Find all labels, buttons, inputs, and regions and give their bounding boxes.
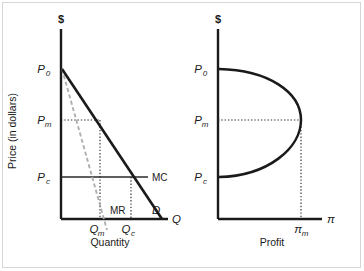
left-label-qc-sub: c <box>131 229 135 238</box>
left-label-pm: P m <box>37 114 52 129</box>
demand-label: D <box>152 204 160 216</box>
left-label-pc: P c <box>37 171 50 186</box>
economics-figure: $ Q Price (in dollars) P 0 <box>0 0 364 271</box>
right-label-pim-sub: m <box>302 229 309 238</box>
left-label-p0-base: P <box>37 63 45 75</box>
marginal-revenue-label: MR <box>110 205 126 216</box>
left-x-axis-unit: Q <box>172 213 181 225</box>
left-label-p0: P 0 <box>37 63 51 78</box>
figure-frame <box>3 3 361 268</box>
figure-canvas: $ Q Price (in dollars) P 0 <box>0 0 364 271</box>
right-label-pm: P m <box>194 114 209 129</box>
right-label-pc-base: P <box>194 171 202 183</box>
right-x-axis-unit: π <box>327 213 335 225</box>
left-y-axis-label: Price (in dollars) <box>6 93 18 169</box>
right-label-p0-sub: 0 <box>203 69 208 78</box>
left-label-qc-base: Q <box>122 223 131 235</box>
left-label-pc-sub: c <box>46 177 50 186</box>
right-y-axis-unit: $ <box>215 13 221 25</box>
right-panel: $ π P 0 P m P c <box>194 13 335 248</box>
marginal-revenue-line <box>62 69 107 230</box>
right-label-pc-sub: c <box>203 177 207 186</box>
left-label-p0-sub: 0 <box>46 69 51 78</box>
left-y-axis-label-group: Price (in dollars) <box>6 93 18 169</box>
right-label-pim: π m <box>294 223 309 238</box>
left-label-pm-sub: m <box>45 120 52 129</box>
right-label-p0-base: P <box>194 63 202 75</box>
left-label-pc-base: P <box>37 171 45 183</box>
right-panel-caption: Profit <box>260 236 285 248</box>
demand-line <box>62 69 162 219</box>
right-label-p0: P 0 <box>194 63 208 78</box>
profit-curve <box>219 69 301 177</box>
right-label-pm-sub: m <box>202 120 209 129</box>
left-panel-caption: Quantity <box>90 236 130 248</box>
marginal-cost-label: MC <box>152 172 168 183</box>
right-label-pc: P c <box>194 171 207 186</box>
left-panel: $ Q Price (in dollars) P 0 <box>6 13 181 248</box>
left-y-axis-unit: $ <box>58 13 64 25</box>
